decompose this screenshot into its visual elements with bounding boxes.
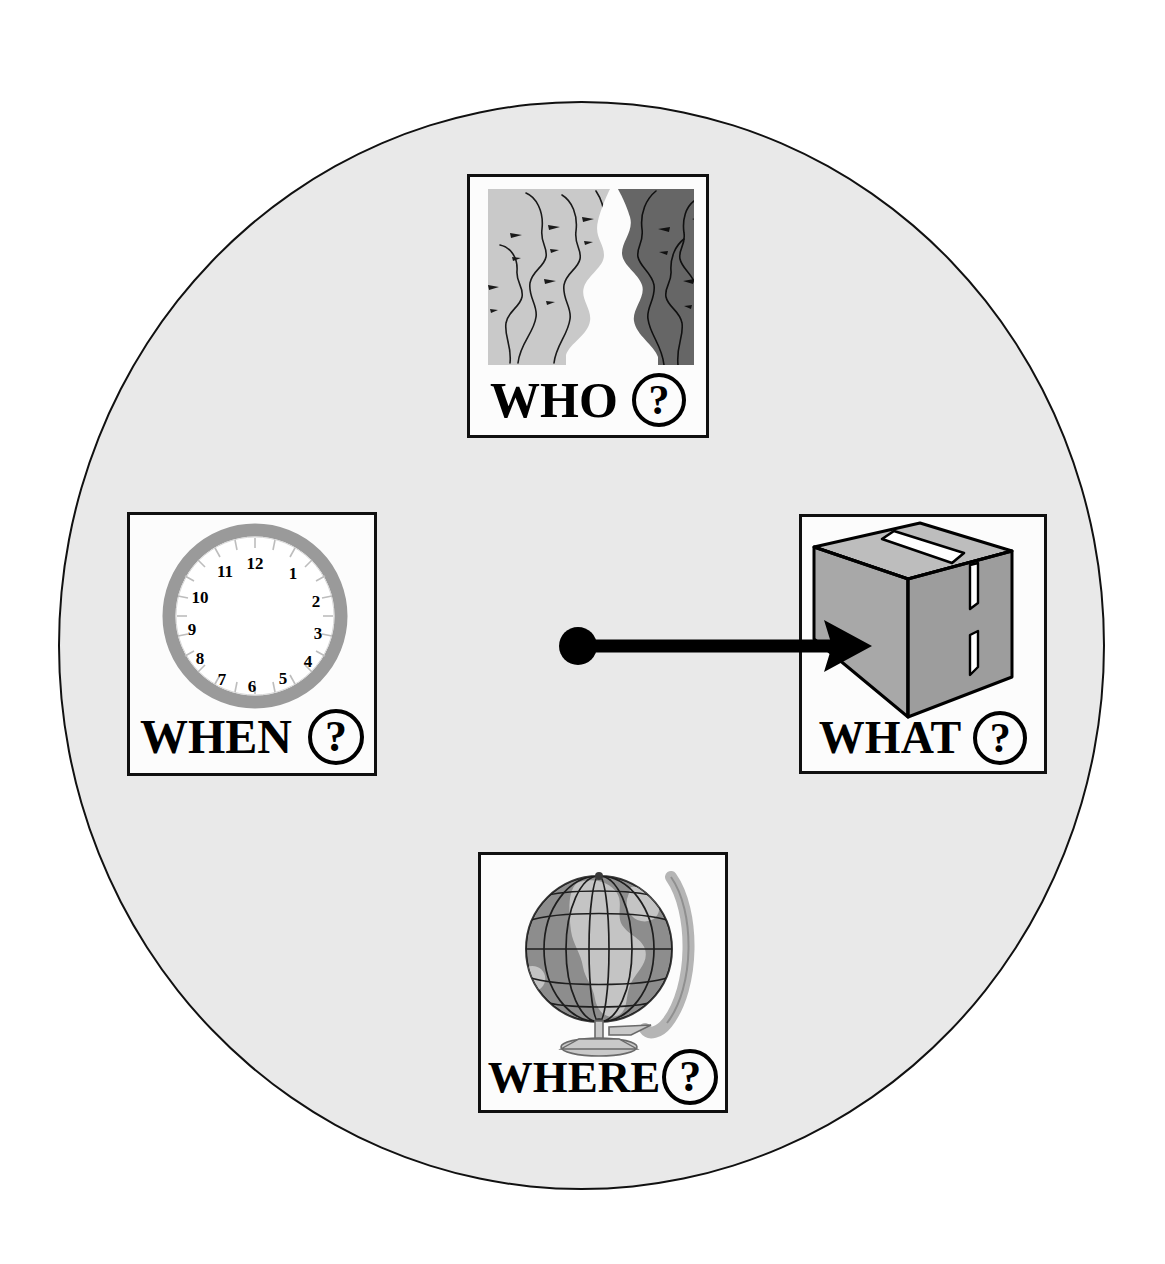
desk-globe-icon: [481, 859, 731, 1057]
when-question-mark: ?: [308, 709, 364, 765]
svg-text:12: 12: [247, 554, 264, 573]
svg-text:11: 11: [217, 562, 233, 581]
diagram-canvas: WHO ?: [0, 0, 1165, 1264]
what-caption: WHAT ?: [802, 707, 1044, 769]
who-caption: WHO ?: [470, 367, 706, 433]
svg-text:2: 2: [312, 592, 321, 611]
cardboard-box-icon: [802, 517, 1050, 732]
svg-text:10: 10: [192, 588, 209, 607]
what-question-mark: ?: [973, 711, 1027, 765]
when-illustration: 12 1 2 3 4 5 6 7 8 9 10 11: [130, 521, 374, 711]
where-caption: WHERE ?: [481, 1046, 725, 1108]
who-question-mark: ?: [632, 373, 686, 427]
svg-text:7: 7: [218, 670, 227, 689]
svg-text:8: 8: [196, 649, 205, 668]
when-label: WHEN: [140, 713, 292, 761]
who-label: WHO: [490, 375, 618, 425]
when-caption: WHEN ?: [130, 703, 374, 771]
panel-where[interactable]: WHERE ?: [478, 852, 728, 1113]
svg-text:9: 9: [188, 620, 197, 639]
svg-text:3: 3: [314, 624, 323, 643]
svg-text:4: 4: [304, 652, 313, 671]
svg-text:6: 6: [248, 677, 257, 696]
who-illustration: [470, 187, 706, 367]
where-question-mark: ?: [662, 1049, 718, 1105]
what-label: WHAT: [819, 715, 961, 761]
where-label: WHERE: [488, 1055, 661, 1100]
svg-text:1: 1: [289, 564, 298, 583]
panel-who[interactable]: WHO ?: [467, 174, 709, 438]
clock-face-icon: 12 1 2 3 4 5 6 7 8 9 10 11: [130, 521, 380, 711]
two-groups-of-face-profiles-icon: [470, 187, 712, 367]
panel-what[interactable]: WHAT ?: [799, 514, 1047, 774]
svg-text:5: 5: [279, 669, 288, 688]
what-illustration: [802, 517, 1044, 732]
where-illustration: [481, 859, 725, 1057]
panel-when[interactable]: 12 1 2 3 4 5 6 7 8 9 10 11 WHEN ?: [127, 512, 377, 776]
